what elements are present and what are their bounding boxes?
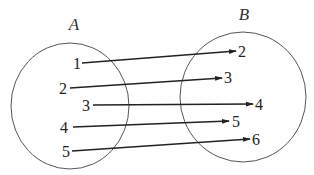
set-b-element-6: 6 — [252, 131, 260, 148]
set-b: B 23456 — [180, 5, 306, 162]
arrow-4-to-5 — [73, 121, 229, 127]
set-a-element-2: 2 — [59, 80, 67, 97]
set-a-element-5: 5 — [62, 143, 70, 160]
arrow-1-to-2 — [82, 51, 236, 63]
set-mapping-diagram: A 12345 B 23456 — [0, 0, 314, 175]
set-a-label: A — [68, 15, 80, 34]
set-a: A 12345 — [11, 15, 129, 169]
arrow-3-to-4 — [93, 104, 253, 105]
set-a-element-4: 4 — [60, 119, 68, 136]
set-b-element-2: 2 — [238, 43, 246, 60]
arrow-2-to-3 — [70, 78, 222, 88]
set-b-label: B — [239, 5, 250, 24]
set-b-element-4: 4 — [255, 96, 263, 113]
set-a-element-3: 3 — [82, 97, 90, 114]
set-a-elements: 12345 — [59, 55, 90, 160]
set-a-circle — [11, 43, 129, 169]
set-a-element-1: 1 — [73, 55, 81, 72]
arrow-5-to-6 — [72, 139, 250, 151]
set-b-element-5: 5 — [232, 113, 240, 130]
set-b-elements: 23456 — [224, 43, 263, 148]
set-b-element-3: 3 — [224, 69, 232, 86]
mapping-arrows — [70, 51, 253, 151]
